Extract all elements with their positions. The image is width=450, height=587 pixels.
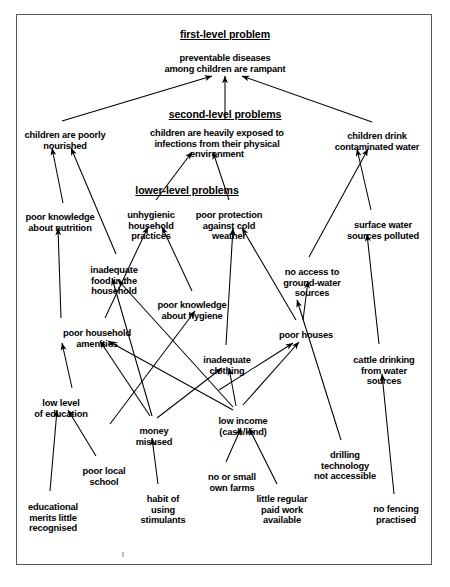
node-no-fencing: no fencing practised [361, 504, 431, 525]
arrow-n-drilling-to-n-noaccess [297, 300, 341, 440]
node-little-work: little regular paid work available [245, 494, 320, 526]
arrow-n-edu-merits-to-n-low-edu [50, 410, 57, 491]
node-drink-water: children drink contaminated water [325, 131, 430, 152]
node-amenities: poor household amenities [50, 328, 145, 349]
node-money: money misused [124, 426, 184, 447]
node-cattle: cattle drinking from water sources [342, 355, 427, 387]
node-edu-merits: educational merits little recognised [16, 502, 91, 534]
node-small-farms: no or small own farms [197, 472, 267, 493]
arrow-n-surface-to-n-drink-water [357, 149, 371, 210]
node-drilling: drilling technology not accessible [303, 450, 388, 482]
node-infections: children are heavily exposed to infectio… [140, 128, 295, 160]
node-stimulants: habit of using stimulants [132, 494, 194, 526]
node-cold: poor protection against cold weather [187, 210, 272, 242]
arrow-layer [0, 0, 450, 587]
node-poor-school: poor local school [69, 466, 139, 487]
node-low-income: low income (cash/kind) [206, 416, 281, 437]
node-houses: poor houses [269, 330, 344, 341]
arrow-n-know-nutr-to-n-poorly-nour [52, 148, 63, 203]
node-inadeq-food: inadequate food in the household [78, 265, 150, 297]
arrow-n-clothing-to-n-cold [226, 228, 233, 345]
node-preventable: preventable diseases among children are … [140, 53, 310, 74]
page-speck [122, 552, 124, 557]
problem-tree-diagram: preventable diseases among children are … [0, 0, 450, 587]
header-h2: second-level problems [125, 108, 325, 120]
node-noaccess: no access to ground-water sources [272, 267, 352, 299]
arrow-n-cattle-to-n-surface [367, 234, 379, 344]
node-poorly-nour: children are poorly nourished [10, 130, 120, 151]
arrow-n-amenities-to-n-know-nutr [58, 228, 61, 318]
arrow-n-low-edu-to-n-amenities [62, 343, 72, 388]
node-know-nutr: poor knowledge about nutrition [13, 212, 108, 233]
node-surface: surface water sources polluted [333, 220, 433, 241]
node-know-hyg: poor knowledge about hygiene [145, 300, 240, 321]
node-unhygienic: unhygienic household practices [116, 210, 186, 242]
node-clothing: inadequate clothing [191, 355, 263, 376]
node-low-edu: low level of education [21, 398, 101, 419]
arrow-n-inadeq-food-to-n-poorly-nour [71, 148, 116, 254]
header-h1: first-level problem [125, 28, 325, 40]
header-h3: lower-level problems [87, 184, 287, 196]
